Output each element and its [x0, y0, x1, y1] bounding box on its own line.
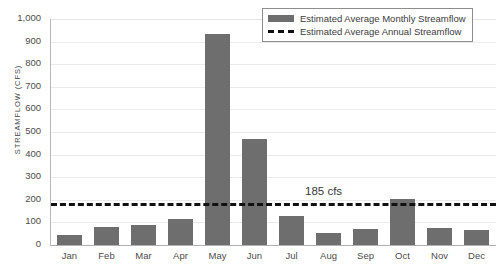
- x-tick-label: Apr: [162, 250, 199, 261]
- dashed-line-swatch-icon: [268, 30, 294, 33]
- bar-cell: [236, 19, 273, 245]
- y-tick-label: 500: [1, 125, 41, 136]
- y-tick-label: 800: [1, 57, 41, 68]
- bar-cell: [51, 19, 88, 245]
- bar-series: [51, 19, 495, 245]
- bar-may: [205, 34, 230, 245]
- bar-cell: [125, 19, 162, 245]
- y-tick-label: 0: [1, 238, 41, 249]
- bar-cell: [421, 19, 458, 245]
- x-tick-label: Mar: [125, 250, 162, 261]
- chart-legend: Estimated Average Monthly Streamflow Est…: [262, 8, 473, 42]
- y-tick-label: 1,000: [1, 12, 41, 23]
- y-tick-label: 400: [1, 148, 41, 159]
- x-tick-label: Jul: [273, 250, 310, 261]
- bar-cell: [310, 19, 347, 245]
- bar-cell: [458, 19, 495, 245]
- x-tick-label: Feb: [88, 250, 125, 261]
- x-tick-label: Sep: [347, 250, 384, 261]
- bar-apr: [168, 219, 193, 245]
- x-tick-label: May: [199, 250, 236, 261]
- x-tick-label: Jun: [236, 250, 273, 261]
- legend-item-monthly: Estimated Average Monthly Streamflow: [268, 12, 466, 25]
- bar-jun: [242, 139, 267, 245]
- x-axis-tick-labels: JanFebMarAprMayJunJulAugSepOctNovDec: [51, 250, 495, 261]
- x-tick-label: Jan: [51, 250, 88, 261]
- legend-label-annual: Estimated Average Annual Streamflow: [300, 26, 461, 37]
- bar-nov: [427, 228, 452, 245]
- y-tick-label: 900: [1, 35, 41, 46]
- bar-cell: [347, 19, 384, 245]
- annual-average-line: [51, 203, 496, 206]
- bar-jul: [279, 216, 304, 245]
- legend-label-monthly: Estimated Average Monthly Streamflow: [300, 13, 466, 24]
- y-tick-label: 600: [1, 102, 41, 113]
- x-tick-label: Aug: [310, 250, 347, 261]
- bar-sep: [353, 229, 378, 245]
- bar-jan: [57, 235, 82, 245]
- bar-dec: [464, 230, 489, 245]
- annual-average-label: 185 cfs: [305, 185, 342, 197]
- bar-mar: [131, 225, 156, 245]
- bar-cell: [162, 19, 199, 245]
- y-tick-label: 300: [1, 170, 41, 181]
- x-tick-label: Oct: [384, 250, 421, 261]
- streamflow-bar-chart: STREAMFLOW (CFS) 1,000 900 800 700 600 5…: [0, 0, 502, 278]
- bar-cell: [273, 19, 310, 245]
- bar-feb: [94, 227, 119, 245]
- y-tick-label: 700: [1, 80, 41, 91]
- y-axis-tick-labels: 1,000 900 800 700 600 500 400 300 200 10…: [0, 19, 45, 245]
- legend-item-annual: Estimated Average Annual Streamflow: [268, 25, 466, 38]
- bar-swatch-icon: [268, 15, 294, 22]
- bar-aug: [316, 233, 341, 245]
- y-tick-label: 200: [1, 193, 41, 204]
- bar-cell: [199, 19, 236, 245]
- x-tick-label: Dec: [458, 250, 495, 261]
- y-tick-label: 100: [1, 215, 41, 226]
- x-tick-label: Nov: [421, 250, 458, 261]
- bar-cell: [88, 19, 125, 245]
- bar-cell: [384, 19, 421, 245]
